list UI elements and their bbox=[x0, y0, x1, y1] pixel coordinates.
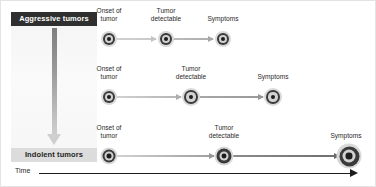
indolent-tumor-row: Onset of tumorTumor detectableSymptoms bbox=[1, 1, 376, 187]
tumor-marker-icon bbox=[337, 144, 362, 169]
time-axis-arrow-icon bbox=[350, 169, 358, 177]
stage-label: Tumor detectable bbox=[194, 124, 254, 139]
tumor-marker-icon bbox=[101, 148, 118, 165]
tumor-marker-inner bbox=[343, 150, 356, 163]
tumor-marker-icon bbox=[215, 147, 234, 166]
tumor-marker-core bbox=[222, 154, 227, 159]
time-axis-line bbox=[39, 173, 351, 174]
tumor-marker-ring bbox=[102, 149, 116, 163]
stage-label: Onset of tumor bbox=[79, 124, 139, 139]
tumor-progression-diagram: Aggressive tumors Indolent tumors Onset … bbox=[0, 0, 376, 187]
tumor-marker-inner bbox=[219, 151, 229, 161]
progression-arrow bbox=[224, 155, 339, 157]
progression-arrow-shaft bbox=[224, 155, 339, 157]
progression-arrow-shaft bbox=[109, 155, 214, 157]
stage-label: Symptoms bbox=[316, 132, 376, 140]
tumor-marker-core bbox=[346, 153, 353, 160]
progression-arrow bbox=[109, 155, 214, 157]
tumor-marker-inner bbox=[105, 152, 114, 161]
tumor-marker-core bbox=[107, 154, 111, 158]
time-axis-label: Time bbox=[15, 167, 30, 174]
tumor-marker-ring bbox=[339, 146, 359, 166]
tumor-marker-ring bbox=[216, 148, 231, 163]
